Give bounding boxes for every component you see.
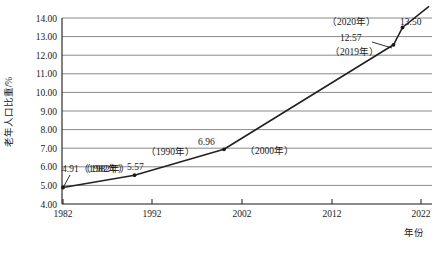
x-tick-label-2002: 2002 <box>233 209 252 219</box>
line-chart: 14.00 13.00 12.00 11.00 10.00 9.00 8.00 … <box>0 0 439 253</box>
annotation-year-2000: （2000年） <box>245 145 294 156</box>
annotation-year-1990: （1990年） <box>146 146 195 157</box>
y-axis-title: 老年人口比重/% <box>3 77 14 148</box>
y-tick-label-5: 5.00 <box>40 181 57 191</box>
x-axis-tick-labels: 1982 1992 2002 2012 2022 <box>54 209 431 219</box>
x-tick-label-2012: 2012 <box>323 209 342 219</box>
annotation-label-2019: 12.57 <box>340 33 362 43</box>
x-tick-label-1992: 1992 <box>143 209 162 219</box>
y-tick-label-9: 9.00 <box>40 107 57 117</box>
data-point-1990 <box>133 173 137 177</box>
x-tick-label-1982: 1982 <box>54 209 73 219</box>
y-tick-label-4: 4.00 <box>40 200 57 210</box>
data-point-2000 <box>222 147 226 151</box>
y-tick-label-12: 12.00 <box>36 51 58 61</box>
x-tick-label-2022: 2022 <box>412 209 431 219</box>
annotation-label-2020: 13.50 <box>400 17 422 27</box>
x-axis-title: 年份 <box>404 227 424 238</box>
y-tick-label-14: 14.00 <box>36 14 58 24</box>
y-tick-label-7: 7.00 <box>40 144 57 154</box>
y-axis-tick-labels: 14.00 13.00 12.00 11.00 10.00 9.00 8.00 … <box>36 14 58 210</box>
annotation-year-1982: （1982年） <box>81 163 130 174</box>
annotation-year-2019: （2019年） <box>330 46 379 57</box>
y-tick-label-8: 8.00 <box>40 125 57 135</box>
y-tick-label-11: 11.00 <box>36 69 57 79</box>
annotation-year-2020: （2020年） <box>327 16 376 27</box>
y-tick-label-6: 6.00 <box>40 162 57 172</box>
data-point-2019 <box>392 43 396 47</box>
y-tick-label-13: 13.00 <box>36 32 58 42</box>
annotation-label-2000: 6.96 <box>198 137 215 147</box>
annotation-label-1990: 5.57 <box>127 162 144 172</box>
y-tick-label-10: 10.00 <box>36 88 58 98</box>
chart-screenshot: — —— ———— ————— — — —— ——————— <box>0 0 439 253</box>
